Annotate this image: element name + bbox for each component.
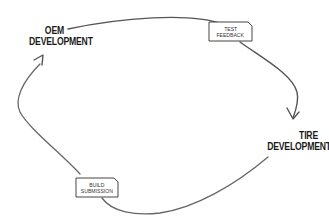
tag-build-line2: SUBMISSION xyxy=(81,188,113,194)
tag-test-line2: FEEDBACK xyxy=(217,32,244,38)
edge-oem-to-tire xyxy=(68,17,298,118)
edge-tire-to-oem xyxy=(18,64,268,214)
node-oem-line2: DEVELOPMENT xyxy=(29,36,80,47)
node-oem-development: OEM DEVELOPMENT xyxy=(29,25,80,47)
cycle-diagram: OEM DEVELOPMENT TIRE DEVELOPMENT TEST FE… xyxy=(0,0,329,220)
node-tire-line2: DEVELOPMENT xyxy=(267,141,318,152)
arrowhead-up-icon xyxy=(34,55,43,65)
edge-label-build-submission: BUILD SUBMISSION xyxy=(76,178,118,197)
node-tire-development: TIRE DEVELOPMENT xyxy=(267,130,318,152)
edge-label-test-feedback: TEST FEEDBACK xyxy=(209,22,252,41)
